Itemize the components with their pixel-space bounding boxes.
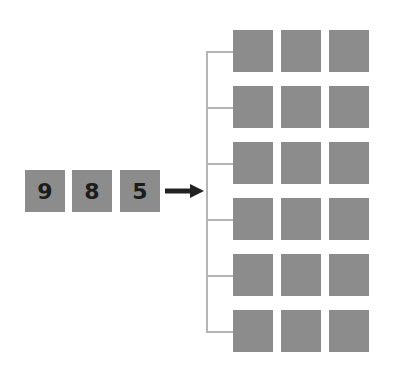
bracket-tick — [206, 163, 233, 165]
grid-cell — [233, 30, 273, 72]
bracket-vertical-line — [206, 51, 208, 331]
grid-cell — [233, 86, 273, 128]
grid-cell — [329, 142, 369, 184]
bracket-tick — [206, 275, 233, 277]
grid-cell — [329, 310, 369, 352]
bracket-tick — [206, 219, 233, 221]
grid-cell — [329, 86, 369, 128]
grid-cell — [281, 142, 321, 184]
grid-cell — [233, 310, 273, 352]
bracket-tick — [206, 107, 233, 109]
grid-cell — [281, 198, 321, 240]
grid-cell — [281, 86, 321, 128]
grid-cell — [281, 30, 321, 72]
grid-cell — [329, 198, 369, 240]
grid-cell — [329, 30, 369, 72]
grid-cell — [233, 254, 273, 296]
grid-cell — [281, 254, 321, 296]
grid-cell — [329, 254, 369, 296]
bracket-tick — [206, 51, 233, 53]
grid-cell — [233, 142, 273, 184]
grid-cell — [281, 310, 321, 352]
grid-cell — [233, 198, 273, 240]
bracket-tick — [206, 331, 233, 333]
